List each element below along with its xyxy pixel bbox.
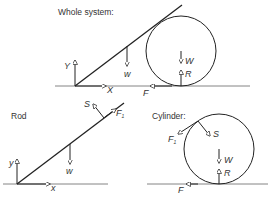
label-y: y (8, 158, 14, 168)
cylinder-diagram: Cylinder: F1 S W R F (147, 111, 268, 195)
label-S: S (213, 129, 219, 139)
label-F: F (143, 88, 149, 98)
label-X: X (106, 85, 114, 95)
label-R: R (185, 69, 192, 79)
whole-system-diagram: Whole system: Y X w W R F (55, 5, 250, 98)
label-W: W (185, 56, 195, 66)
rod-diagram: Rod y x w S F1 (3, 99, 125, 193)
rod-title: Rod (11, 111, 27, 121)
label-R: R (224, 168, 231, 178)
label-x: x (50, 183, 56, 193)
label-S: S (84, 99, 90, 109)
label-w: w (124, 69, 131, 79)
contact-force-arrow (93, 104, 104, 118)
friction-arrow (105, 109, 116, 117)
cylinder-title: Cylinder: (152, 111, 186, 121)
label-Y: Y (64, 61, 71, 71)
whole-system-title: Whole system: (58, 7, 114, 17)
label-F: F (178, 185, 184, 195)
label-W: W (224, 155, 234, 165)
label-F1: F1 (116, 108, 125, 119)
label-w: w (66, 166, 73, 176)
label-F1: F1 (168, 134, 177, 145)
contact-force-arrow (198, 121, 210, 136)
